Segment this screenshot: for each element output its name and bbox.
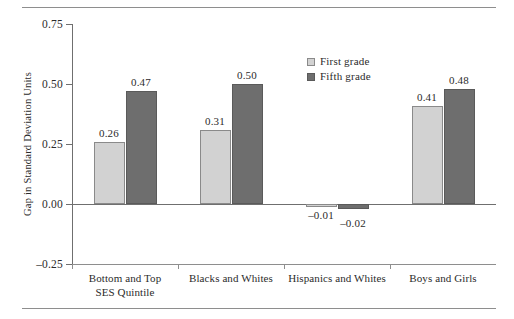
y-tick-mark: [66, 84, 72, 85]
y-axis-title: Gap in Standard Deviation Units: [22, 24, 36, 264]
bar-value-label: 0.41: [417, 91, 437, 103]
bar-value-label: –0.01: [308, 209, 334, 221]
bar-first-grade: [306, 204, 337, 207]
bar-value-label: 0.48: [449, 74, 469, 86]
figure-container: Gap in Standard Deviation Units 0.750.50…: [0, 0, 514, 319]
y-tick-label: 0.25: [42, 138, 63, 150]
zero-baseline: [72, 204, 496, 205]
legend-label: First grade: [320, 55, 370, 68]
y-axis-line: [72, 24, 73, 264]
bottom-rule: [22, 308, 496, 309]
x-category-label: Boys and Girls: [380, 272, 506, 286]
chart-legend: First gradeFifth grade: [307, 55, 371, 85]
legend-item-first-grade: First grade: [307, 55, 371, 68]
legend-item-fifth-grade: Fifth grade: [307, 70, 371, 83]
x-tick-mark: [178, 264, 179, 269]
bar-fifth-grade: [232, 84, 263, 204]
bar-first-grade: [94, 142, 125, 204]
y-tick-label: 0.75: [42, 18, 63, 30]
legend-swatch-icon: [307, 73, 315, 81]
y-tick-mark: [66, 24, 72, 25]
bar-value-label: –0.02: [340, 217, 366, 229]
bar-fifth-grade: [444, 89, 475, 204]
bar-value-label: 0.50: [237, 69, 257, 81]
bar-fifth-grade: [338, 204, 369, 209]
x-tick-mark: [284, 264, 285, 269]
x-tick-mark: [72, 264, 73, 269]
y-tick-label: –0.25: [36, 258, 63, 270]
legend-label: Fifth grade: [320, 70, 371, 83]
legend-swatch-icon: [307, 58, 315, 66]
bar-value-label: 0.26: [99, 127, 119, 139]
bar-fifth-grade: [126, 91, 157, 204]
y-tick-label: 0.50: [42, 78, 63, 90]
y-tick-mark: [66, 144, 72, 145]
x-tick-mark: [390, 264, 391, 269]
y-tick-label: 0.00: [42, 198, 63, 210]
bar-value-label: 0.47: [131, 76, 151, 88]
plot-area: 0.750.500.250.00–0.25 0.260.470.310.50–0…: [72, 24, 496, 264]
bar-value-label: 0.31: [205, 115, 225, 127]
bar-first-grade: [412, 106, 443, 204]
bar-first-grade: [200, 130, 231, 204]
top-rule: [22, 7, 496, 8]
